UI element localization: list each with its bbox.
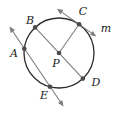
line-m-label: m — [101, 22, 111, 35]
point-d-dot — [81, 76, 86, 81]
center-p-dot — [57, 51, 62, 56]
point-e-label: E — [39, 89, 48, 102]
secant-arrowhead-upper-icon — [10, 27, 16, 34]
point-a-label: A — [9, 47, 18, 60]
point-c-dot — [77, 22, 82, 27]
secant-arrowhead-lower-icon — [58, 100, 64, 106]
tangent-arrowhead-upper-icon — [57, 9, 63, 15]
point-e-dot — [48, 85, 53, 90]
figure-canvas: A B C D E P m — [0, 0, 120, 113]
center-p-label: P — [51, 57, 60, 70]
point-b-label: B — [25, 14, 34, 27]
radius-cp — [59, 24, 79, 53]
tangent-arrowhead-lower-icon — [90, 31, 96, 37]
point-c-label: C — [79, 5, 88, 18]
tangent-line-m — [59, 10, 95, 35]
point-a-dot — [22, 46, 27, 51]
point-d-label: D — [91, 76, 101, 89]
geometry-figure: A B C D E P m — [0, 0, 120, 113]
